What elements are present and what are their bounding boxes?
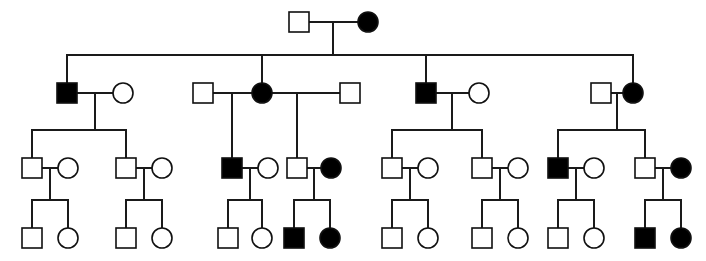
unaffected-female-symbol	[58, 158, 78, 178]
unaffected-female-symbol	[469, 83, 489, 103]
unaffected-female-symbol	[258, 158, 278, 178]
unaffected-male-symbol	[193, 83, 213, 103]
unaffected-female-symbol	[508, 158, 528, 178]
affected-female-symbol	[358, 12, 378, 32]
unaffected-male-symbol	[382, 158, 402, 178]
unaffected-male-symbol	[287, 158, 307, 178]
unaffected-male-symbol	[116, 228, 136, 248]
unaffected-female-symbol	[508, 228, 528, 248]
unaffected-female-symbol	[152, 228, 172, 248]
affected-male-symbol	[416, 83, 436, 103]
unaffected-female-symbol	[113, 83, 133, 103]
unaffected-female-symbol	[58, 228, 78, 248]
unaffected-male-symbol	[591, 83, 611, 103]
affected-male-symbol	[284, 228, 304, 248]
unaffected-male-symbol	[340, 83, 360, 103]
affected-male-symbol	[548, 158, 568, 178]
unaffected-female-symbol	[252, 228, 272, 248]
unaffected-male-symbol	[289, 12, 309, 32]
affected-female-symbol	[320, 228, 340, 248]
unaffected-male-symbol	[382, 228, 402, 248]
unaffected-male-symbol	[548, 228, 568, 248]
unaffected-male-symbol	[22, 228, 42, 248]
affected-male-symbol	[57, 83, 77, 103]
pedigree-canvas	[0, 0, 706, 261]
unaffected-male-symbol	[218, 228, 238, 248]
unaffected-male-symbol	[472, 228, 492, 248]
connector-lines-layer	[32, 22, 681, 228]
unaffected-male-symbol	[635, 158, 655, 178]
affected-male-symbol	[635, 228, 655, 248]
unaffected-female-symbol	[418, 158, 438, 178]
unaffected-female-symbol	[584, 228, 604, 248]
unaffected-female-symbol	[418, 228, 438, 248]
affected-male-symbol	[222, 158, 242, 178]
unaffected-male-symbol	[116, 158, 136, 178]
unaffected-female-symbol	[152, 158, 172, 178]
unaffected-male-symbol	[22, 158, 42, 178]
affected-female-symbol	[252, 83, 272, 103]
affected-female-symbol	[671, 228, 691, 248]
affected-female-symbol	[623, 83, 643, 103]
affected-female-symbol	[321, 158, 341, 178]
pedigree-chart	[0, 0, 706, 261]
unaffected-female-symbol	[584, 158, 604, 178]
affected-female-symbol	[671, 158, 691, 178]
unaffected-male-symbol	[472, 158, 492, 178]
